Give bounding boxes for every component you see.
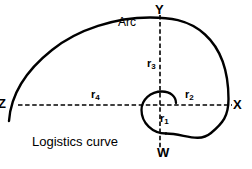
spiral-inner-coil [142, 92, 177, 134]
radius-label-r2: r2 [185, 89, 194, 100]
point-label-w: W [157, 146, 169, 159]
radius-label-r3: r3 [147, 58, 156, 69]
radius-label-r4-sub: 4 [95, 93, 99, 102]
radius-label-r4: r4 [91, 89, 100, 100]
logistics-curve-figure: Y X W Z r1 r2 r3 r4 Arc Logistics curve [0, 0, 252, 169]
point-label-y: Y [155, 3, 164, 16]
spiral-outer-sweep [9, 18, 229, 138]
arc-annotation: Arc [118, 16, 136, 28]
figure-caption: Logistics curve [32, 135, 118, 148]
radius-label-r1-sub: 1 [164, 117, 168, 126]
radius-label-r2-sub: 2 [189, 93, 193, 102]
point-label-x: X [233, 98, 242, 111]
point-label-z: Z [0, 97, 6, 110]
radius-label-r3-sub: 3 [151, 62, 155, 71]
radius-label-r1: r1 [160, 113, 169, 124]
